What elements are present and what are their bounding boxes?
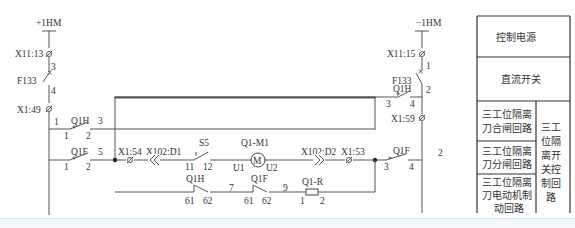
terminal-icon xyxy=(126,156,134,164)
svg-text:刀分闸回路: 刀分闸回路 xyxy=(482,158,532,170)
contact-label: Q1H xyxy=(393,84,412,94)
contact-label: Q1F xyxy=(71,147,88,157)
svg-text:1: 1 xyxy=(54,117,59,127)
svg-text:三工位隔离: 三工位隔离 xyxy=(482,176,532,188)
svg-text:动回路: 动回路 xyxy=(494,202,524,214)
terminal-icon xyxy=(345,156,353,164)
svg-text:2: 2 xyxy=(320,196,325,206)
svg-text:1: 1 xyxy=(64,162,69,172)
svg-text:2: 2 xyxy=(438,148,443,158)
terminal-icon xyxy=(46,106,52,112)
svg-text:离开: 离开 xyxy=(541,149,561,161)
brake-circuit-row: Q1H 61 62 7 Q1F 61 62 9 Q1-R 1 2 xyxy=(115,160,375,206)
resistor-label: Q1-R xyxy=(302,177,324,187)
terminal-label: X1:59 xyxy=(391,114,415,124)
circuit-diagram: +1HM X11:13 3 × F133 4 X1:49 −1HM X11:15… xyxy=(0,0,575,228)
legend-item-opening-circuit: 三工位隔离 刀分闸回路 xyxy=(482,145,532,170)
bottom-divider xyxy=(0,218,575,228)
svg-text:61: 61 xyxy=(244,196,254,206)
motor-icon: M xyxy=(251,153,265,167)
junction-dot xyxy=(113,158,117,162)
limit-switch-icon xyxy=(194,152,210,162)
svg-text:1: 1 xyxy=(64,131,69,141)
svg-text:路: 路 xyxy=(546,191,556,203)
breaker-label: F133 xyxy=(17,76,37,86)
contact-label: Q1F xyxy=(393,146,410,156)
svg-text:61: 61 xyxy=(185,196,195,206)
svg-text:62: 62 xyxy=(203,196,213,206)
svg-text:刀合闸回路: 刀合闸回路 xyxy=(482,122,532,134)
resistor-icon xyxy=(306,189,318,195)
breaker-switch-icon: × xyxy=(416,67,423,84)
svg-text:5: 5 xyxy=(98,147,103,157)
legend-item-closing-circuit: 三工位隔离 刀合闸回路 xyxy=(482,108,532,134)
svg-text:62: 62 xyxy=(262,196,272,206)
terminal-label: X1:49 xyxy=(17,105,41,115)
switch-label: S5 xyxy=(199,138,209,148)
svg-text:4: 4 xyxy=(51,86,56,96)
opening-circuit-row: Q1F 5 1 2 X1:54 X102:D1 S5 11 12 Q1-M1 xyxy=(49,138,443,173)
svg-text:制回: 制回 xyxy=(541,177,561,189)
svg-text:M: M xyxy=(253,156,262,166)
svg-text:2: 2 xyxy=(426,85,431,95)
negative-bus-label: −1HM xyxy=(416,18,442,28)
svg-text:2: 2 xyxy=(86,162,91,172)
svg-text:3: 3 xyxy=(98,116,103,126)
svg-text:3: 3 xyxy=(386,99,391,109)
svg-text:×: × xyxy=(418,67,423,77)
legend-row-dc-switch: 直流开关 xyxy=(501,73,541,85)
closing-circuit-row: 1 Q1H 3 1 2 xyxy=(49,116,375,141)
svg-text:4: 4 xyxy=(410,99,415,109)
terminal-label: X1:54 xyxy=(118,147,142,157)
svg-text:9: 9 xyxy=(283,183,288,193)
normally-closed-contact-icon xyxy=(253,185,269,194)
svg-text:三工位隔离: 三工位隔离 xyxy=(482,145,532,157)
svg-text:1: 1 xyxy=(426,61,431,71)
svg-text:4: 4 xyxy=(409,162,414,172)
contact-label: Q1H xyxy=(186,174,205,184)
positive-bus-label: +1HM xyxy=(36,18,62,28)
plug-connector-icon xyxy=(148,154,160,166)
plug-connector-icon xyxy=(313,154,325,166)
svg-text:三工位隔离: 三工位隔离 xyxy=(482,108,532,120)
svg-text:位隔: 位隔 xyxy=(541,135,561,147)
terminal-label: X11:15 xyxy=(387,49,415,59)
svg-text:刀电动机制: 刀电动机制 xyxy=(482,189,532,201)
svg-text:11: 11 xyxy=(185,162,194,172)
svg-text:2: 2 xyxy=(86,131,91,141)
normally-closed-contact-icon xyxy=(194,185,210,194)
legend-group-label: 三工 位隔 离开 关控 制回 路 xyxy=(541,122,561,203)
terminal-label: X11:13 xyxy=(15,49,43,59)
svg-text:3: 3 xyxy=(384,162,389,172)
terminal-icon xyxy=(419,51,425,57)
terminal-icon xyxy=(46,51,52,57)
svg-text:1: 1 xyxy=(300,196,305,206)
terminal-label: X1:53 xyxy=(341,147,365,157)
svg-text:7: 7 xyxy=(229,183,234,193)
legend-item-motor-brake-circuit: 三工位隔离 刀电动机制 动回路 xyxy=(482,176,532,214)
breaker-switch-icon: × xyxy=(43,68,52,82)
motor-label: Q1-M1 xyxy=(241,138,269,148)
legend-row-control-power: 控制电源 xyxy=(496,31,536,43)
right-power-rail: −1HM X11:15 1 × F133 2 X1:59 xyxy=(387,18,442,213)
svg-text:U2: U2 xyxy=(266,163,278,173)
svg-text:U1: U1 xyxy=(233,163,245,173)
legend-table: 控制电源 直流开关 三工位隔离 刀合闸回路 三工位隔离 刀分闸回路 三工位隔离 … xyxy=(477,16,570,214)
contact-label: Q1F xyxy=(251,174,268,184)
terminal-icon xyxy=(419,115,425,121)
svg-text:12: 12 xyxy=(203,162,213,172)
svg-text:三工: 三工 xyxy=(541,122,561,133)
svg-text:×: × xyxy=(47,68,52,78)
svg-text:关控: 关控 xyxy=(541,163,561,175)
